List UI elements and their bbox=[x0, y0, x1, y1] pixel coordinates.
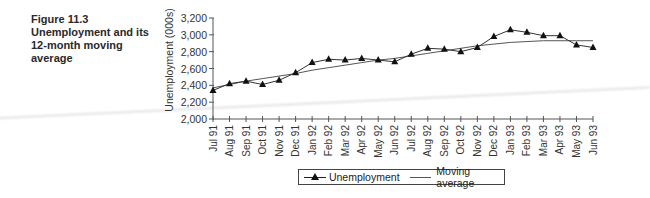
x-tick-label: Nov 91 bbox=[274, 125, 285, 157]
x-tick-label: Feb 92 bbox=[323, 125, 334, 157]
x-tick-label: Dec 91 bbox=[290, 125, 301, 157]
triangle-marker-icon bbox=[441, 45, 448, 52]
y-tick-label: 2,200 bbox=[181, 96, 207, 108]
x-tick-label: Jan 92 bbox=[307, 125, 318, 155]
y-tick-label: 2,600 bbox=[181, 63, 207, 75]
x-tick-label: May 92 bbox=[373, 125, 384, 158]
moving-average-series bbox=[213, 41, 593, 88]
x-tick-label: Apr 92 bbox=[356, 125, 367, 155]
triangle-marker-icon bbox=[474, 43, 481, 50]
x-tick-label: Jun 92 bbox=[389, 125, 400, 155]
y-tick-label: 2,400 bbox=[181, 79, 207, 91]
triangle-marker-icon bbox=[304, 172, 324, 182]
x-tick-label: Aug 92 bbox=[422, 125, 433, 157]
y-tick-label: 3,000 bbox=[181, 29, 207, 41]
y-tick-label: 3,200 bbox=[181, 12, 207, 24]
x-tick-label: Oct 92 bbox=[455, 125, 466, 155]
x-tick-label: Mar 93 bbox=[538, 125, 549, 157]
x-tick-label: Jul 91 bbox=[208, 125, 219, 152]
x-tick-label: Nov 92 bbox=[472, 125, 483, 157]
x-axis: Jul 91Aug 91Sep 91Oct 91Nov 91Dec 91Jan … bbox=[208, 116, 599, 158]
legend-moving-average: Moving average bbox=[436, 165, 504, 189]
x-tick-label: Sep 91 bbox=[241, 125, 252, 157]
triangle-marker-icon bbox=[424, 44, 431, 51]
y-tick-label: 2,800 bbox=[181, 46, 207, 58]
y-axis: 2,0002,2002,4002,6002,8003,0003,200 bbox=[181, 12, 214, 125]
line-icon bbox=[410, 177, 432, 178]
x-tick-label: Feb 93 bbox=[521, 125, 532, 157]
triangle-marker-icon bbox=[358, 54, 365, 61]
x-tick-label: Oct 91 bbox=[257, 125, 268, 155]
y-tick-label: 2,000 bbox=[181, 113, 207, 125]
x-tick-label: May 93 bbox=[571, 125, 582, 158]
x-tick-label: Apr 93 bbox=[554, 125, 565, 155]
x-tick-label: Jul 92 bbox=[406, 125, 417, 152]
x-tick-label: Sep 92 bbox=[439, 125, 450, 157]
triangle-marker-icon bbox=[573, 41, 580, 48]
chart-legend: Unemployment Moving average bbox=[298, 169, 505, 185]
x-tick-label: Dec 92 bbox=[488, 125, 499, 157]
x-tick-label: Aug 91 bbox=[224, 125, 235, 157]
x-tick-label: Jun 93 bbox=[588, 125, 599, 155]
triangle-marker-icon bbox=[556, 32, 563, 39]
triangle-marker-icon bbox=[325, 55, 332, 62]
legend-unemployment: Unemployment bbox=[329, 171, 400, 183]
triangle-marker-icon bbox=[292, 69, 299, 76]
unemployment-series bbox=[210, 26, 597, 93]
triangle-marker-icon bbox=[507, 26, 514, 33]
x-tick-label: Jan 93 bbox=[505, 125, 516, 155]
x-tick-label: Mar 92 bbox=[340, 125, 351, 157]
